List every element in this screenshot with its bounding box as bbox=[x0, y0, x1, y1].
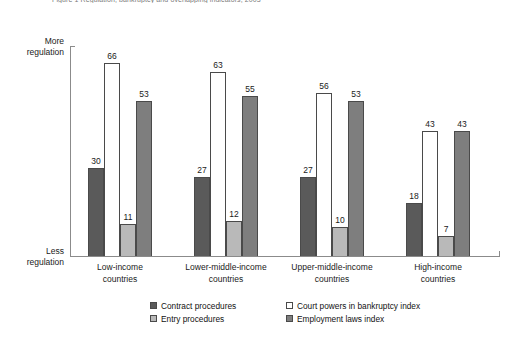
bar-column[interactable]: 56 bbox=[316, 46, 332, 256]
bar-value-label: 55 bbox=[242, 84, 258, 94]
bar-column[interactable]: 27 bbox=[300, 46, 316, 256]
bar[interactable] bbox=[332, 227, 348, 256]
legend-label: Employment laws index bbox=[297, 314, 384, 324]
bar-value-label: 43 bbox=[454, 119, 470, 129]
category-label-line: countries bbox=[278, 274, 386, 286]
category-label-line: High-income bbox=[384, 262, 492, 274]
legend-item[interactable]: Employment laws index bbox=[286, 313, 420, 324]
bar-column[interactable]: 43 bbox=[422, 46, 438, 256]
category-label: Low-incomecountries bbox=[66, 262, 174, 285]
y-axis-bottom-label-line1: Less bbox=[6, 246, 64, 257]
legend-item[interactable]: Contract procedures bbox=[150, 300, 278, 311]
bar[interactable] bbox=[300, 177, 316, 256]
bar-value-label: 18 bbox=[406, 191, 422, 201]
x-axis-line bbox=[70, 256, 500, 257]
bar-column[interactable]: 10 bbox=[332, 46, 348, 256]
legend-swatch-icon bbox=[286, 315, 293, 322]
legend-label: Entry procedures bbox=[161, 314, 224, 324]
bar-value-label: 11 bbox=[120, 212, 136, 222]
bar[interactable] bbox=[438, 236, 454, 256]
legend-item[interactable]: Court powers in bankruptcy index bbox=[286, 300, 420, 311]
category-label-line: Low-income bbox=[66, 262, 174, 274]
legend-label: Contract procedures bbox=[161, 301, 236, 311]
bar-value-label: 12 bbox=[226, 209, 242, 219]
category-label: Upper-middle-incomecountries bbox=[278, 262, 386, 285]
legend-swatch-icon bbox=[286, 302, 293, 309]
bar-column[interactable]: 55 bbox=[242, 46, 258, 256]
bar-column[interactable]: 66 bbox=[104, 46, 120, 256]
bar[interactable] bbox=[406, 203, 422, 256]
y-axis-bottom-label-line2: regulation bbox=[6, 257, 64, 268]
bar[interactable] bbox=[348, 101, 364, 256]
bar-group: 1843743High-incomecountries bbox=[406, 46, 470, 256]
bar-column[interactable]: 12 bbox=[226, 46, 242, 256]
bar-group-bars: 1843743 bbox=[406, 46, 470, 256]
bar-column[interactable]: 30 bbox=[88, 46, 104, 256]
bar-value-label: 63 bbox=[210, 60, 226, 70]
bar-column[interactable]: 18 bbox=[406, 46, 422, 256]
bar-value-label: 66 bbox=[104, 51, 120, 61]
bar-value-label: 53 bbox=[136, 89, 152, 99]
bar-column[interactable]: 63 bbox=[210, 46, 226, 256]
bar-value-label: 56 bbox=[316, 81, 332, 91]
bar-value-label: 53 bbox=[348, 89, 364, 99]
bar-group: 30661153Low-incomecountries bbox=[88, 46, 152, 256]
y-axis-top-label-line2: regulation bbox=[6, 47, 64, 58]
bar-value-label: 27 bbox=[300, 165, 316, 175]
bar-group-bars: 27631255 bbox=[194, 46, 258, 256]
bar-column[interactable]: 11 bbox=[120, 46, 136, 256]
bar-column[interactable]: 27 bbox=[194, 46, 210, 256]
category-label-line: Lower-middle-income bbox=[172, 262, 280, 274]
y-axis-top-tick bbox=[70, 46, 75, 47]
category-label-line: countries bbox=[172, 274, 280, 286]
bar-value-label: 27 bbox=[194, 165, 210, 175]
bar-value-label: 7 bbox=[438, 224, 454, 234]
bar-value-label: 30 bbox=[88, 156, 104, 166]
bar[interactable] bbox=[242, 96, 258, 256]
category-label-line: countries bbox=[66, 274, 174, 286]
bar-group-bars: 27561053 bbox=[300, 46, 364, 256]
category-label: Lower-middle-incomecountries bbox=[172, 262, 280, 285]
bar[interactable] bbox=[88, 168, 104, 256]
legend-swatch-icon bbox=[150, 315, 157, 322]
category-label: High-incomecountries bbox=[384, 262, 492, 285]
bar[interactable] bbox=[104, 63, 120, 256]
bar[interactable] bbox=[120, 224, 136, 256]
legend-label: Court powers in bankruptcy index bbox=[297, 301, 420, 311]
bar-column[interactable]: 43 bbox=[454, 46, 470, 256]
legend-item[interactable]: Entry procedures bbox=[150, 313, 278, 324]
chart-legend: Contract proceduresCourt powers in bankr… bbox=[150, 300, 420, 324]
y-axis-line bbox=[70, 46, 71, 257]
bar-value-label: 43 bbox=[422, 119, 438, 129]
bar-group-bars: 30661153 bbox=[88, 46, 152, 256]
bar[interactable] bbox=[210, 72, 226, 256]
x-axis-end-tick bbox=[499, 251, 500, 257]
bar[interactable] bbox=[316, 93, 332, 256]
bar-value-label: 10 bbox=[332, 215, 348, 225]
bar[interactable] bbox=[194, 177, 210, 256]
bar[interactable] bbox=[454, 131, 470, 256]
bar-group: 27561053Upper-middle-incomecountries bbox=[300, 46, 364, 256]
plot-area: 30661153Low-incomecountries27631255Lower… bbox=[70, 46, 500, 257]
category-label-line: countries bbox=[384, 274, 492, 286]
figure-title: Figure 1 Regulation, bankruptcy and over… bbox=[52, 0, 472, 3]
bar-column[interactable]: 53 bbox=[348, 46, 364, 256]
bar-column[interactable]: 53 bbox=[136, 46, 152, 256]
bar-column[interactable]: 7 bbox=[438, 46, 454, 256]
category-label-line: Upper-middle-income bbox=[278, 262, 386, 274]
bar[interactable] bbox=[226, 221, 242, 256]
y-axis-bottom-label: Less regulation bbox=[6, 246, 64, 267]
bar-group: 27631255Lower-middle-incomecountries bbox=[194, 46, 258, 256]
y-axis-top-label: More regulation bbox=[6, 36, 64, 57]
legend-swatch-icon bbox=[150, 302, 157, 309]
bar[interactable] bbox=[422, 131, 438, 256]
bar[interactable] bbox=[136, 101, 152, 256]
chart-figure: Figure 1 Regulation, bankruptcy and over… bbox=[0, 0, 528, 349]
y-axis-top-label-line1: More bbox=[6, 36, 64, 47]
